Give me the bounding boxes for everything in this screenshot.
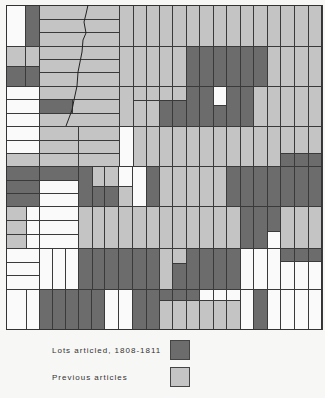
map-legend: Lots articled, 1808-1811 Previous articl… bbox=[0, 336, 325, 398]
legend-swatch-dark bbox=[170, 340, 190, 360]
legend-label-articled: Lots articled, 1808-1811 bbox=[52, 346, 170, 355]
river-path bbox=[66, 5, 88, 126]
legend-item-previous: Previous articles bbox=[52, 367, 190, 387]
legend-label-previous: Previous articles bbox=[52, 373, 170, 382]
legend-swatch-light bbox=[170, 367, 190, 387]
legend-item-articled: Lots articled, 1808-1811 bbox=[52, 340, 190, 360]
river-line bbox=[0, 0, 325, 335]
